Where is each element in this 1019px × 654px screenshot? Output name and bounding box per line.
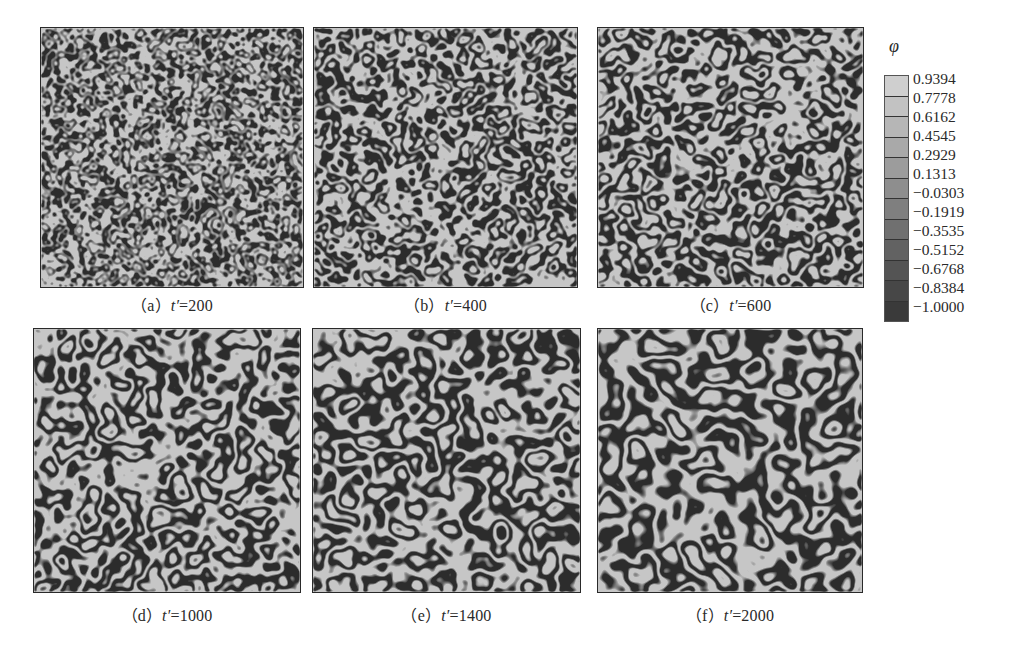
caption-label: （a）	[131, 297, 171, 314]
phase-field-image	[314, 28, 577, 287]
phase-field-image	[313, 329, 580, 592]
colorbar-symbol: φ	[889, 36, 899, 57]
caption-c: （c）t′=600	[597, 292, 864, 316]
caption-a: （a）t′=200	[40, 292, 304, 316]
time-value: =2000	[732, 607, 774, 624]
time-variable: t′	[445, 297, 453, 314]
phase-field-pattern	[598, 28, 863, 287]
panel-c-t600	[597, 27, 864, 288]
time-variable: t′	[729, 297, 737, 314]
colorbar-tick-label: 0.4545	[913, 126, 964, 145]
phase-field-image	[34, 329, 300, 592]
caption-label: （e）	[401, 607, 441, 624]
colorbar-segment	[885, 117, 908, 138]
caption-d: （d）t′=1000	[33, 602, 301, 626]
colorbar-segment	[885, 240, 908, 261]
phase-field-pattern	[314, 28, 577, 287]
time-value: =400	[453, 297, 487, 314]
time-value: =600	[738, 297, 772, 314]
caption-label: （b）	[404, 297, 445, 314]
colorbar	[884, 75, 909, 322]
time-variable: t′	[171, 297, 179, 314]
colorbar-tick-label: 0.6162	[913, 107, 964, 126]
colorbar-segment	[885, 179, 908, 200]
panel-b-t400	[313, 27, 578, 288]
panel-a-t200	[40, 27, 304, 288]
phase-field-pattern	[598, 329, 862, 592]
colorbar-segment	[885, 138, 908, 159]
phase-field-pattern	[313, 329, 580, 592]
colorbar-tick-label: 0.7778	[913, 88, 964, 107]
colorbar-segment	[885, 199, 908, 220]
caption-b: （b）t′=400	[313, 292, 578, 316]
colorbar-tick-label: −0.8384	[913, 278, 964, 297]
caption-label: （f）	[686, 607, 724, 624]
colorbar-segment	[885, 220, 908, 241]
phase-field-pattern	[41, 28, 303, 287]
colorbar-tick-label: 0.2929	[913, 145, 964, 164]
colorbar-tick-labels: 0.93940.77780.61620.45450.29290.1313−0.0…	[913, 69, 964, 316]
time-value: =1400	[450, 607, 492, 624]
time-variable: t′	[441, 607, 449, 624]
phase-field-pattern	[34, 329, 300, 592]
time-variable: t′	[724, 607, 732, 624]
colorbar-segment	[885, 261, 908, 282]
time-value: =200	[179, 297, 213, 314]
colorbar-segment	[885, 281, 908, 302]
colorbar-segment	[885, 158, 908, 179]
panel-f-t2000	[597, 328, 863, 593]
panel-e-t1400	[312, 328, 581, 593]
colorbar-tick-label: −0.5152	[913, 240, 964, 259]
colorbar-tick-label: −0.1919	[913, 202, 964, 221]
colorbar-tick-label: 0.9394	[913, 69, 964, 88]
phase-field-image	[598, 329, 862, 592]
colorbar-tick-label: −0.6768	[913, 259, 964, 278]
colorbar-tick-label: −0.0303	[913, 183, 964, 202]
phase-field-image	[598, 28, 863, 287]
colorbar-tick-label: −0.3535	[913, 221, 964, 240]
colorbar-segment	[885, 302, 908, 322]
caption-e: （e）t′=1400	[312, 602, 581, 626]
caption-label: （c）	[690, 297, 730, 314]
phase-field-image	[41, 28, 303, 287]
caption-f: （f）t′=2000	[597, 602, 863, 626]
time-value: =1000	[170, 607, 212, 624]
colorbar-tick-label: −1.0000	[913, 297, 964, 316]
colorbar-segment	[885, 76, 908, 97]
colorbar-tick-label: 0.1313	[913, 164, 964, 183]
colorbar-segment	[885, 97, 908, 118]
caption-label: （d）	[122, 607, 163, 624]
panel-d-t1000	[33, 328, 301, 593]
